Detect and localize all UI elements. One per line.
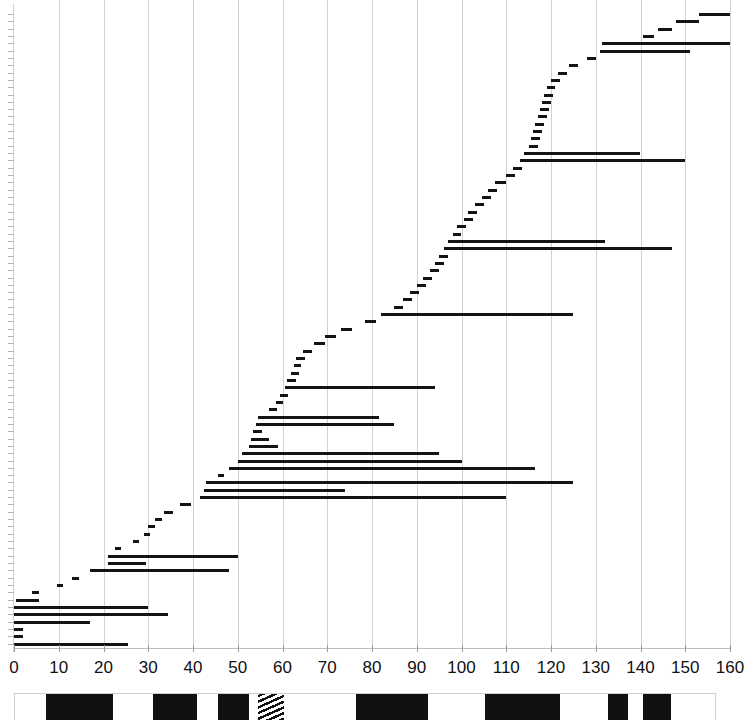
y-tick	[8, 73, 14, 74]
y-tick	[8, 153, 14, 154]
y-tick	[8, 65, 14, 66]
x-axis-label-130: 130	[582, 658, 610, 677]
y-tick	[8, 461, 14, 462]
interval-bar	[294, 364, 302, 367]
y-tick	[8, 21, 14, 22]
interval-bar	[204, 489, 345, 492]
interval-bar	[148, 525, 155, 528]
y-tick	[8, 307, 14, 308]
interval-plot	[0, 0, 745, 652]
interval-bar	[453, 233, 462, 236]
gridline-160	[730, 0, 731, 652]
y-tick	[8, 87, 14, 88]
y-tick	[8, 116, 14, 117]
interval-bar	[600, 50, 690, 53]
y-tick	[8, 475, 14, 476]
interval-bar	[108, 562, 146, 565]
interval-bar	[430, 269, 439, 272]
interval-bar	[699, 13, 730, 16]
interval-bar	[457, 225, 466, 228]
interval-bar	[643, 35, 654, 38]
interval-bar	[287, 379, 296, 382]
x-tick-30	[148, 645, 149, 652]
y-tick	[8, 43, 14, 44]
x-axis-label-140: 140	[626, 658, 654, 677]
interval-bar	[249, 445, 278, 448]
x-tick-100	[462, 645, 463, 652]
interval-bar	[468, 211, 477, 214]
interval-bar	[291, 372, 299, 375]
x-axis-label-100: 100	[447, 658, 475, 677]
y-tick	[8, 343, 14, 344]
y-tick	[8, 600, 14, 601]
y-tick	[8, 51, 14, 52]
interval-bar	[587, 57, 596, 60]
interval-bar	[540, 108, 549, 111]
y-tick	[8, 585, 14, 586]
interval-bar	[253, 430, 262, 433]
track-block-solid	[643, 694, 671, 720]
interval-bar	[506, 174, 515, 177]
x-tick-10	[59, 645, 60, 652]
y-tick	[8, 168, 14, 169]
track-block-solid	[608, 694, 628, 720]
x-axis-label-90: 90	[407, 658, 426, 677]
x-tick-80	[372, 645, 373, 652]
y-tick	[8, 482, 14, 483]
y-tick	[8, 497, 14, 498]
x-tick-90	[417, 645, 418, 652]
interval-bar	[133, 540, 140, 543]
interval-bar	[258, 416, 379, 419]
interval-bar	[381, 313, 573, 316]
interval-bar	[256, 423, 395, 426]
y-tick	[8, 190, 14, 191]
x-tick-70	[327, 645, 328, 652]
x-tick-40	[193, 645, 194, 652]
x-axis-label-150: 150	[671, 658, 699, 677]
interval-bar	[325, 335, 336, 338]
interval-bar	[444, 247, 672, 250]
y-tick	[8, 380, 14, 381]
interval-bar	[529, 145, 538, 148]
y-tick	[8, 285, 14, 286]
x-tick-140	[641, 645, 642, 652]
interval-bar	[488, 189, 497, 192]
interval-bar	[314, 342, 325, 345]
y-tick	[8, 373, 14, 374]
gridline-130	[596, 0, 597, 652]
x-tick-20	[104, 645, 105, 652]
gridline-150	[685, 0, 686, 652]
x-tick-50	[238, 645, 239, 652]
interval-bar	[285, 386, 435, 389]
interval-bar	[365, 320, 376, 323]
x-tick-120	[551, 645, 552, 652]
y-tick	[8, 409, 14, 410]
gridline-70	[327, 0, 328, 652]
y-tick	[8, 109, 14, 110]
interval-bar	[475, 203, 484, 206]
interval-bar	[296, 357, 305, 360]
y-tick	[8, 292, 14, 293]
y-tick	[8, 417, 14, 418]
x-tick-0	[14, 645, 15, 652]
gridline-20	[104, 0, 105, 652]
x-axis-label-50: 50	[228, 658, 247, 677]
interval-bar	[423, 277, 432, 280]
y-tick	[8, 424, 14, 425]
interval-bar	[547, 86, 556, 89]
interval-bar	[417, 284, 426, 287]
track-block-solid	[356, 694, 428, 720]
y-tick	[8, 241, 14, 242]
y-tick	[8, 453, 14, 454]
gridline-50	[238, 0, 239, 652]
y-tick	[8, 365, 14, 366]
interval-bar	[569, 64, 578, 67]
x-axis-label-70: 70	[318, 658, 337, 677]
y-tick	[8, 138, 14, 139]
interval-bar	[403, 298, 412, 301]
track-block-solid	[46, 694, 114, 720]
interval-bar	[72, 577, 79, 580]
interval-bar	[464, 218, 473, 221]
x-axis-label-110: 110	[493, 658, 520, 677]
y-tick	[8, 402, 14, 403]
